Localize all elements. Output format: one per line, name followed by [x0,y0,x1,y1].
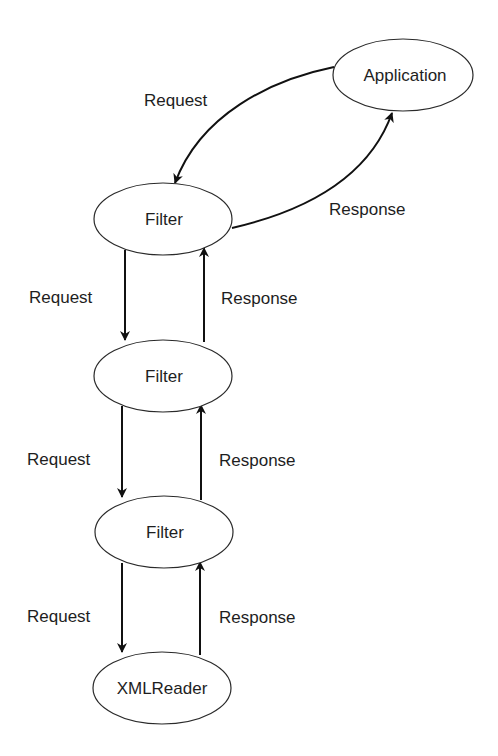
edge-application-to-filter1 [175,67,334,183]
node-filter-1: Filter [94,183,232,255]
label-response-filter2-filter1: Response [221,289,298,308]
node-filter-1-label: Filter [145,210,183,229]
node-xmlreader-label: XMLReader [117,679,208,698]
label-request-filter3-xmlreader: Request [27,607,91,626]
node-filter-2-label: Filter [145,367,183,386]
label-request-filter2-filter3: Request [27,450,91,469]
label-response-filter3-filter2: Response [219,451,296,470]
label-request-app-filter1: Request [144,91,208,110]
label-response-filter1-app: Response [329,200,406,219]
node-application: Application [333,39,473,111]
node-filter-3-label: Filter [146,523,184,542]
filter-chain-diagram: Application Filter Filter Filter XMLRead… [0,0,498,756]
node-filter-3: Filter [95,496,233,568]
node-xmlreader: XMLReader [93,652,231,724]
node-application-label: Application [363,66,446,85]
label-response-xmlreader-filter3: Response [219,608,296,627]
label-request-filter1-filter2: Request [29,288,93,307]
node-filter-2: Filter [94,340,232,412]
